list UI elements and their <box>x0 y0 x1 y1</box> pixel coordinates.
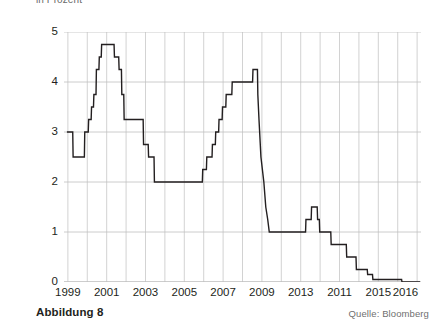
x-tick-label-2001: 2001 <box>94 286 120 298</box>
x-tick-label-2011: 2011 <box>327 286 352 298</box>
line-chart-svg <box>64 32 421 282</box>
x-tick-label-2009: 2009 <box>249 286 275 298</box>
x-tick-label-2003: 2003 <box>133 286 159 298</box>
x-tick-label-2005: 2005 <box>171 286 197 298</box>
x-axis: 1999200120032005200720092013201120152016 <box>64 286 421 302</box>
y-tick-label-5: 5 <box>36 25 58 37</box>
source-attribution: Quelle: Bloomberg <box>349 308 429 319</box>
chart-subtitle: in Prozent <box>36 0 82 5</box>
y-tick-label-1: 1 <box>36 225 58 237</box>
figure-footer: Abbildung 8 Quelle: Bloomberg <box>0 306 437 326</box>
chart-plot-area <box>64 32 421 282</box>
y-tick-label-2: 2 <box>36 175 58 187</box>
x-tick-label-1999: 1999 <box>55 286 81 298</box>
series-line-leitzins <box>67 45 420 283</box>
x-tick-label-2015: 2015 <box>366 286 392 298</box>
x-tick-label-2007: 2007 <box>210 286 236 298</box>
x-tick-label-2016: 2016 <box>393 286 419 298</box>
figure-container: in Prozent 012345 1999200120032005200720… <box>0 0 437 328</box>
figure-caption: Abbildung 8 <box>36 306 104 318</box>
y-tick-label-3: 3 <box>36 125 58 137</box>
x-tick-label-2013: 2013 <box>288 286 314 298</box>
y-tick-label-4: 4 <box>36 75 58 87</box>
y-axis: 012345 <box>32 32 58 282</box>
